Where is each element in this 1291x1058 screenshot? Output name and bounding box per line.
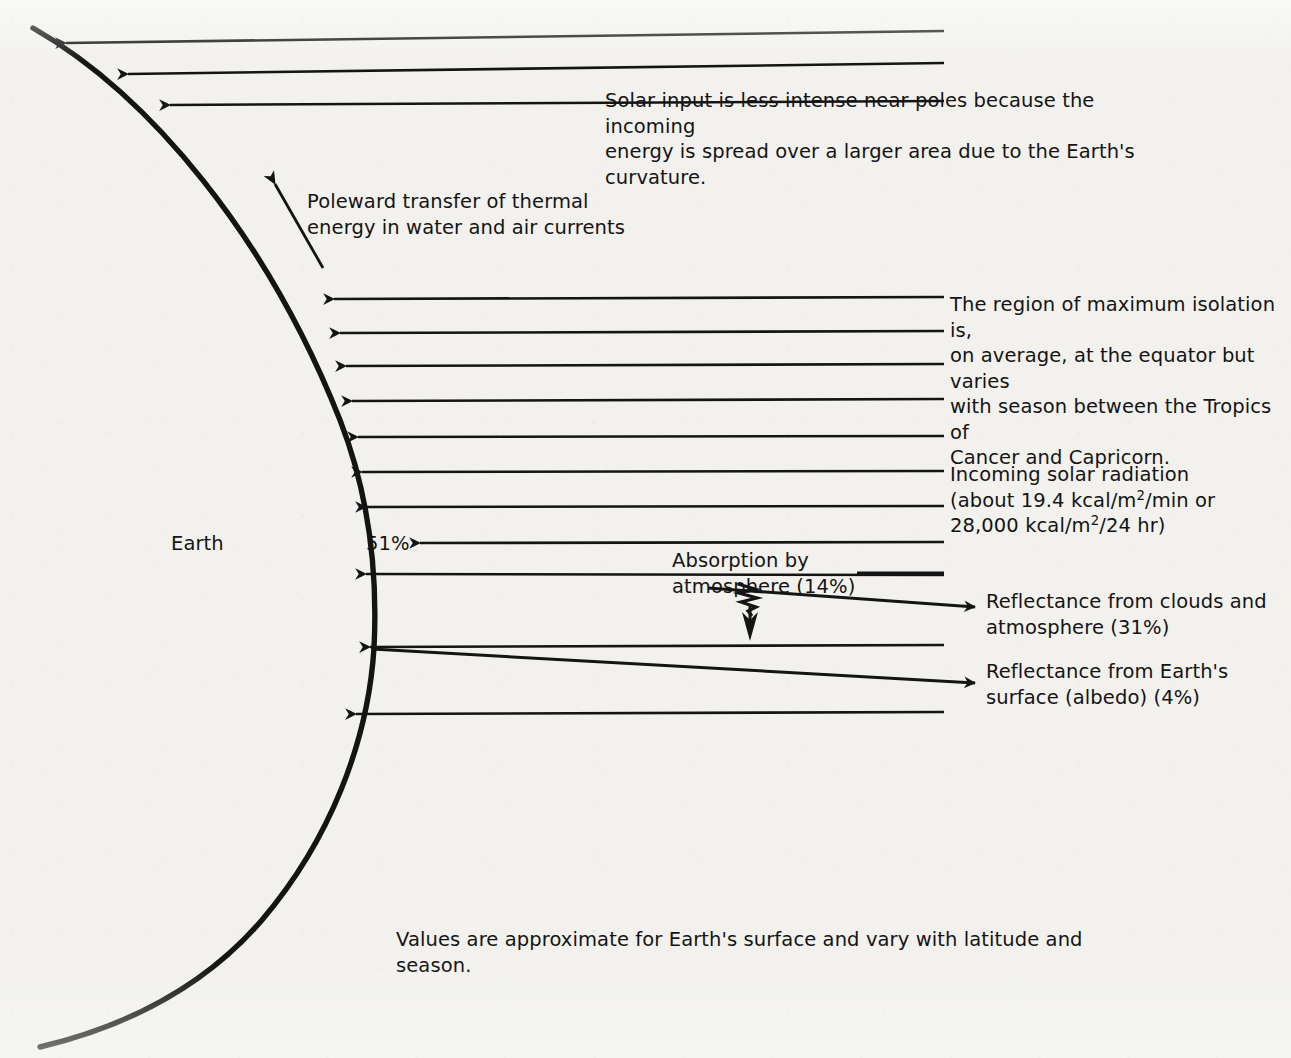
reflectance-surface-annotation: Reflectance from Earth's surface (albedo…: [986, 659, 1286, 710]
incoming-line-1: Incoming solar radiation: [950, 463, 1189, 486]
poleward-transfer-annotation: Poleward transfer of thermal energy in w…: [307, 189, 637, 240]
incoming-ray-5: [358, 436, 944, 437]
incoming-line-3-post: /24 hr): [1099, 514, 1165, 537]
incoming-line-3-pre: 28,000 kcal/m: [950, 514, 1091, 537]
figure-footnote: Values are approximate for Earth's surfa…: [396, 927, 1096, 978]
incoming-ray-4: [352, 399, 944, 401]
solar-input-annotation: Solar input is less intense near poles b…: [605, 88, 1145, 190]
incoming-line-2-sup: 2: [1136, 487, 1145, 502]
incoming-ray-3: [346, 364, 944, 366]
incoming-ray-9: [370, 645, 944, 647]
incoming-solar-radiation-annotation: Incoming solar radiation(about 19.4 kcal…: [950, 462, 1280, 539]
absorption-atmosphere-annotation: Absorption by atmosphere (14%): [672, 548, 922, 599]
incoming-ray-polar-1: [66, 31, 944, 43]
surface-absorbed-percent-label: 51%: [366, 531, 410, 557]
incoming-ray-7: [366, 506, 944, 507]
incoming-ray-polar-2: [128, 63, 944, 74]
incoming-line-3-sup: 2: [1091, 513, 1100, 528]
incoming-line-2-post: /min or: [1145, 489, 1215, 512]
incoming-ray-10: [356, 712, 944, 714]
incoming-ray-6: [362, 471, 944, 472]
earth-label: Earth: [171, 531, 224, 557]
incoming-ray-surface-51: [420, 542, 944, 543]
reflectance-clouds-annotation: Reflectance from clouds and atmosphere (…: [986, 589, 1286, 640]
reflectance-surface-arrow: [372, 649, 975, 683]
incoming-ray-2: [340, 331, 944, 333]
max-insolation-annotation: The region of maximum isolation is, on a…: [950, 292, 1291, 471]
incoming-ray-1: [334, 297, 944, 299]
incoming-line-2-pre: (about 19.4 kcal/m: [950, 489, 1136, 512]
